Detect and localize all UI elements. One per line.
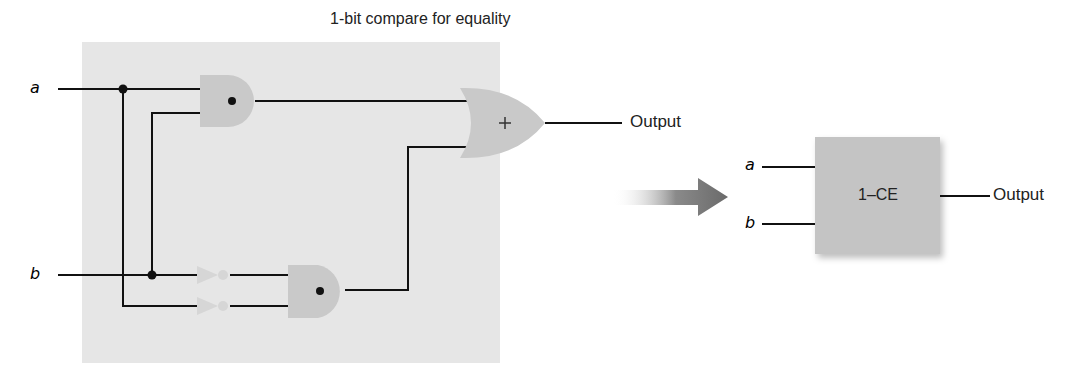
input-label-b: b bbox=[30, 264, 40, 283]
and-dot-icon bbox=[228, 97, 236, 105]
block-input-label-a: a bbox=[745, 155, 755, 174]
arrow-right-icon bbox=[612, 178, 728, 216]
block-input-label-b: b bbox=[745, 213, 755, 232]
and-dot-icon bbox=[316, 287, 324, 295]
and-gate-bottom bbox=[288, 265, 340, 318]
input-label-a: a bbox=[30, 78, 40, 97]
output-label: Output bbox=[630, 112, 681, 132]
junction-b bbox=[148, 271, 157, 280]
block-output-label: Output bbox=[993, 185, 1044, 205]
circuit-diagram bbox=[0, 0, 1087, 376]
junction-a bbox=[119, 85, 128, 94]
block-name: 1–CE bbox=[858, 186, 898, 204]
or-gate bbox=[460, 88, 545, 158]
and-gate-top bbox=[200, 75, 254, 127]
